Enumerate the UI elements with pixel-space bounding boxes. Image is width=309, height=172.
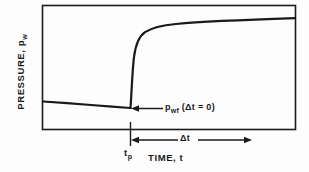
delta-t-arrowhead-right: [244, 137, 252, 144]
tp-annotation-subscript: p: [128, 153, 132, 160]
x-axis-label: TIME, t: [148, 153, 183, 163]
y-axis-label: PRESSURE, pw: [16, 20, 28, 124]
delta-t-arrowhead-left: [131, 137, 139, 144]
delta-t-annotation-label: Δt: [180, 134, 190, 143]
pwf-annotation-tail: (Δt = 0): [179, 102, 215, 112]
pressure-buildup-plot: [0, 0, 309, 172]
buildup-curve: [131, 18, 296, 108]
pwf-annotation-label: pwf (Δt = 0): [165, 103, 215, 114]
chart-figure: PRESSURE, pw TIME, t tp Δt pwf (Δt = 0): [0, 0, 309, 172]
pwf-annotation-subscript: wf: [171, 107, 179, 114]
pwf-callout-arrowhead: [131, 105, 139, 112]
y-axis-label-text: PRESSURE, p: [15, 40, 26, 110]
y-axis-label-subscript: w: [21, 34, 28, 40]
drawdown-curve: [43, 102, 131, 109]
tp-annotation-label: tp: [124, 148, 132, 160]
